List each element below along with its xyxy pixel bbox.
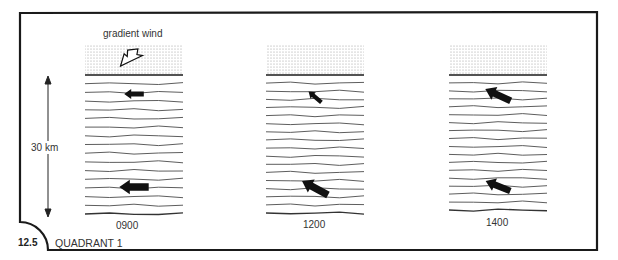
layer-line: [449, 130, 547, 132]
gradient-layer: [266, 44, 364, 75]
gradient-layer: [449, 44, 547, 75]
layer-line: [449, 209, 547, 211]
layer-line: [85, 144, 183, 146]
layer-line: [266, 139, 364, 141]
layer-line: [85, 161, 183, 163]
layer-line: [266, 196, 364, 198]
layer-line: [449, 146, 547, 148]
figure-caption: QUADRANT 1: [55, 237, 123, 249]
time-label-1400: 1400: [486, 217, 508, 228]
layer-line: [449, 201, 547, 203]
time-label-1200: 1200: [303, 219, 325, 230]
layer-line: [449, 82, 547, 84]
wind-arrow-icon: [124, 89, 144, 99]
panel-1400: [449, 44, 547, 211]
layer-line: [449, 161, 547, 163]
layer-line: [449, 114, 547, 116]
layer-line: [85, 152, 183, 154]
layer-line: [85, 213, 183, 215]
layer-line: [449, 178, 547, 180]
layer-line: [266, 164, 364, 166]
layer-line: [85, 117, 183, 119]
layer-line: [85, 109, 183, 111]
height-label: 30 km: [31, 141, 58, 154]
layer-line: [266, 123, 364, 125]
layer-line: [266, 115, 364, 117]
time-label-0900: 0900: [116, 220, 138, 231]
layer-line: [266, 179, 364, 181]
gradient-wind-label: gradient wind: [103, 28, 162, 39]
layer-line: [85, 204, 183, 206]
layer-line: [449, 153, 547, 155]
layer-line: [449, 138, 547, 140]
layer-line: [85, 170, 183, 172]
layer-line: [85, 126, 183, 128]
wind-arrow-icon: [482, 83, 513, 108]
layer-line: [449, 106, 547, 108]
layer-line: [266, 106, 364, 108]
layer-line: [85, 196, 183, 198]
layer-line: [266, 131, 364, 133]
layer-line: [449, 193, 547, 195]
wind-arrow-icon: [119, 180, 148, 195]
layer-line: [85, 101, 183, 103]
layer-line: [85, 83, 183, 85]
panel-1200: [266, 44, 364, 214]
layer-line: [266, 82, 364, 84]
layer-line: [85, 135, 183, 137]
layer-line: [266, 156, 364, 158]
layer-line: [449, 169, 547, 171]
layer-line: [266, 171, 364, 173]
layer-line: [266, 204, 364, 206]
figure-number: 12.5: [18, 237, 37, 248]
layer-line: [449, 122, 547, 124]
layer-line: [85, 178, 183, 180]
layer-line: [266, 147, 364, 149]
layer-line: [266, 212, 364, 214]
panel-0900: [85, 44, 183, 215]
layer-line: [266, 90, 364, 92]
